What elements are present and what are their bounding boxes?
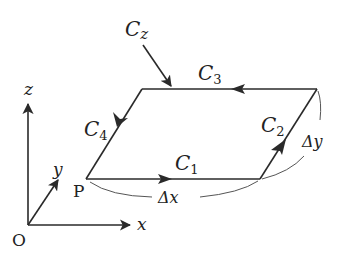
cz-arrow: [143, 45, 171, 86]
label-c4: C4: [84, 117, 108, 143]
cz-pointer: Cz: [125, 17, 171, 86]
delta-x-label: Δx: [157, 188, 179, 207]
origin-label: O: [12, 230, 26, 250]
delta-x-curve-left: [90, 182, 152, 197]
delta-y-label: Δy: [301, 132, 324, 151]
label-c4-main: C: [84, 117, 99, 141]
label-c3-sub: 3: [213, 72, 221, 87]
label-c1-sub: 1: [190, 162, 198, 177]
label-c1: C1: [175, 151, 199, 177]
axis-label-x: x: [137, 214, 147, 234]
label-c1-main: C: [175, 151, 190, 175]
label-c2-sub: 2: [276, 124, 284, 139]
delta-x-brace: Δx: [90, 181, 258, 207]
coordinate-axes: z x y O: [12, 79, 147, 250]
label-c3-main: C: [198, 61, 213, 85]
label-c4-sub: 4: [99, 128, 107, 143]
label-c2: C2: [261, 113, 285, 139]
y-axis: [28, 180, 58, 225]
delta-x-curve-right: [200, 181, 258, 197]
delta-y-curve-top: [318, 91, 321, 120]
delta-y-curve-bottom: [262, 156, 304, 179]
label-cz-sub: z: [139, 25, 148, 43]
axis-label-z: z: [23, 79, 34, 99]
label-cz: Cz: [125, 17, 148, 43]
label-c2-main: C: [261, 113, 276, 137]
label-cz-main: C: [125, 17, 140, 41]
circulation-diagram: z x y O Cz C1 C2 C3 C4 P: [0, 0, 338, 256]
axis-label-y: y: [52, 159, 63, 179]
arrow-c2-icon: [271, 139, 286, 155]
point-p-label: P: [73, 181, 84, 201]
label-c3: C3: [198, 61, 222, 87]
